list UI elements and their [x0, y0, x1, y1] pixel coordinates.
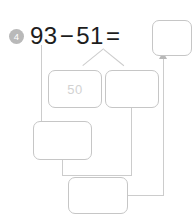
- connector-middle-to-final-vertical: [62, 160, 63, 176]
- connector-rail-horizontal: [97, 175, 132, 176]
- connector-final-to-answer-horizontal: [128, 195, 164, 196]
- connector-minuend-to-middle-box: [41, 45, 42, 121]
- connector-ones-to-rail-vertical: [131, 108, 132, 176]
- connector-final-to-answer-vertical: [163, 58, 164, 196]
- connector-split-right-leg: [82, 48, 104, 66]
- ones-part-box[interactable]: [105, 70, 159, 108]
- connector-middle-to-final-horizontal: [62, 175, 98, 176]
- connector-split-left-leg: [103, 49, 124, 66]
- equation-equals-operator: =: [104, 22, 123, 50]
- problem-number-badge: 4: [9, 29, 24, 44]
- middle-step-box[interactable]: [33, 121, 92, 160]
- tens-part-box[interactable]: 50: [48, 70, 102, 108]
- answer-box[interactable]: [152, 20, 192, 56]
- equation-expression: 93−51=: [30, 22, 122, 50]
- equation-minus-operator: −: [58, 22, 77, 50]
- tens-part-placeholder: 50: [67, 82, 82, 97]
- worksheet-problem-canvas: 4 93−51= 50: [0, 0, 196, 216]
- equation-subtrahend: 51: [76, 22, 104, 50]
- equation-minuend: 93: [30, 22, 58, 50]
- final-step-box[interactable]: [68, 177, 128, 214]
